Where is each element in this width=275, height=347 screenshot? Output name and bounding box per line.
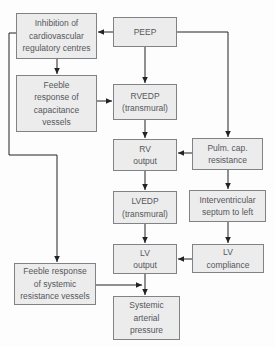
node-inhibition-label-line: regulatory centres [22,42,90,55]
node-feeble-systemic-label-line: of systemic [34,278,77,291]
node-interventricular-label-line: Interventricular [199,194,255,207]
node-feeble-systemic: Feeble response of systemic resistance v… [14,263,96,305]
node-lvedp-label-line: LVEDP [131,195,158,208]
node-lv-output-label-line: output [133,259,157,272]
node-interventricular: Interventricular septum to left [189,190,266,222]
node-rvedp: RVEDP (transmural) [113,84,177,120]
node-rvedp-label-line: (transmural) [122,102,168,115]
node-peep-label-line: PEEP [134,26,157,39]
node-feeble-capacitance-label-line: response of [34,91,78,104]
node-lv-output: LV output [113,244,177,274]
node-inhibition: Inhibition of cardiovascular regulatory … [16,13,97,59]
node-rv-output-label-line: RV [139,143,151,156]
node-lv-compliance: LV compliance [192,244,264,273]
node-lv-compliance-label-line: compliance [207,259,250,272]
node-peep: PEEP [113,17,177,47]
edge-peep-to-pulm-cap-resistance [177,32,228,137]
node-systemic-arterial-label-line: Systemic [129,299,163,312]
node-rvedp-label-line: RVEDP [130,90,159,103]
node-feeble-capacitance-label-line: capacitance [34,104,79,117]
node-pulm-cap-resistance: Pulm. cap. resistance [192,138,263,170]
node-lvedp: LVEDP (transmural) [113,191,177,224]
node-lvedp-label-line: (transmural) [122,208,168,221]
edge-inhibition-to-feeble-systemic [9,33,57,262]
node-interventricular-label-line: septum to left [202,206,253,219]
node-rv-output-label-line: output [133,155,157,168]
node-feeble-systemic-label-line: Feeble response [23,265,86,278]
node-pulm-cap-resistance-label-line: Pulm. cap. [207,142,247,155]
node-inhibition-label-line: cardiovascular [29,30,84,43]
node-feeble-capacitance-label-line: Feeble [44,79,70,92]
node-feeble-capacitance-label-line: vessels [42,116,70,129]
node-inhibition-label-line: Inhibition of [35,17,78,30]
node-pulm-cap-resistance-label-line: resistance [208,154,247,167]
node-systemic-arterial-label-line: pressure [130,324,163,337]
node-rv-output: RV output [113,139,177,171]
node-lv-output-label-line: LV [140,247,150,260]
node-systemic-arterial: Systemic arterial pressure [113,296,180,340]
node-feeble-capacitance: Feeble response of capacitance vessels [16,75,97,132]
node-feeble-systemic-label-line: resistance vessels [20,290,89,303]
node-systemic-arterial-label-line: arterial [134,312,160,325]
node-lv-compliance-label-line: LV [223,246,233,259]
flowchart-canvas: Inhibition of cardiovascular regulatory … [0,0,275,347]
